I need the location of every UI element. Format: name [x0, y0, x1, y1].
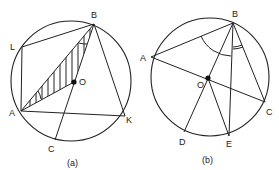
center-dot-O [205, 75, 210, 80]
center-dot-O [71, 79, 76, 84]
angle-mark-A [38, 91, 41, 99]
label-D: D [179, 137, 186, 147]
angle-mark-B [79, 43, 87, 44]
figure-a: B L O A K C (a) [9, 0, 132, 170]
geometry-figure: B L O A K C (a) B A O C D E (b) [0, 0, 279, 170]
caption-b: (b) [202, 155, 213, 165]
figure-b: B A O C D E (b) [140, 9, 273, 165]
chord-AB [151, 23, 233, 57]
label-L: L [10, 42, 15, 52]
label-A: A [140, 53, 146, 63]
label-B: B [91, 10, 97, 20]
label-C: C [48, 144, 55, 154]
caption-a: (a) [67, 158, 78, 168]
label-O: O [197, 80, 204, 90]
chord-BC [233, 23, 265, 102]
angle-mark-ABD [201, 36, 231, 56]
label-E: E [226, 139, 232, 149]
label-A: A [9, 108, 15, 118]
label-K: K [126, 115, 132, 125]
chord-BE [229, 23, 233, 136]
label-C: C [266, 107, 273, 117]
chord-AB [21, 24, 94, 111]
label-O: O [79, 77, 86, 87]
angle-mark-EBC-1 [233, 45, 242, 47]
label-B: B [232, 9, 238, 19]
